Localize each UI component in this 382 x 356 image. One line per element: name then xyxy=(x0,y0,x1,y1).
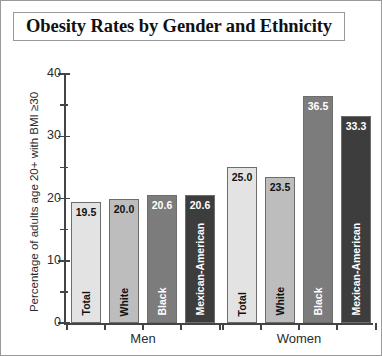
bar-category-label: Total xyxy=(237,292,248,316)
bar-value-label: 20.6 xyxy=(186,200,214,211)
chart-figure: Obesity Rates by Gender and Ethnicity Pe… xyxy=(0,0,382,356)
bar: 33.3Mexican-American xyxy=(341,116,371,323)
x-tick xyxy=(66,323,68,330)
bar: 20.6Black xyxy=(147,195,177,323)
bar-value-label: 20.0 xyxy=(110,204,138,215)
x-tick xyxy=(298,323,300,330)
bar-category-label: Total xyxy=(81,292,92,316)
bar-category-label: Mexican-American xyxy=(351,223,362,316)
plot-area: Percentage of adults age 20+ with BMI ≥3… xyxy=(1,1,382,356)
bar-value-label: 19.5 xyxy=(72,207,100,218)
bar-category-label: White xyxy=(275,287,286,316)
x-axis-group-label: Men xyxy=(71,331,215,346)
x-tick xyxy=(222,323,224,330)
bar-value-label: 20.6 xyxy=(148,200,176,211)
y-tick-minor xyxy=(60,167,68,169)
bar: 19.5Total xyxy=(71,202,101,323)
y-tick-label: 40 xyxy=(21,66,61,80)
bar-value-label: 33.3 xyxy=(342,121,370,132)
bar: 23.5White xyxy=(265,177,295,323)
y-tick-label: 10 xyxy=(21,253,61,267)
y-tick-label: 20 xyxy=(21,191,61,205)
bar-category-label: White xyxy=(119,287,130,316)
y-tick-minor xyxy=(60,229,68,231)
bar-category-label: Mexican-American xyxy=(195,223,206,316)
x-tick xyxy=(142,323,144,330)
bar-value-label: 36.5 xyxy=(304,101,332,112)
y-tick-minor xyxy=(60,104,68,106)
bar-category-label: Black xyxy=(157,288,168,316)
y-tick-label: 30 xyxy=(21,128,61,142)
bar-value-label: 23.5 xyxy=(266,182,294,193)
x-axis-group-label: Women xyxy=(227,331,371,346)
bar: 36.5Black xyxy=(303,96,333,323)
y-tick-minor xyxy=(60,291,68,293)
bar-category-label: Black xyxy=(313,288,324,316)
bar-value-label: 25.0 xyxy=(228,172,256,183)
y-tick-label: 0 xyxy=(21,315,61,329)
x-tick xyxy=(336,323,338,330)
x-tick xyxy=(104,323,106,330)
bar: 20.6Mexican-American xyxy=(185,195,215,323)
x-tick xyxy=(260,323,262,330)
x-tick xyxy=(180,323,182,330)
bar: 20.0White xyxy=(109,199,139,324)
x-tick xyxy=(219,323,221,330)
x-tick xyxy=(375,323,377,330)
bar: 25.0Total xyxy=(227,167,257,323)
